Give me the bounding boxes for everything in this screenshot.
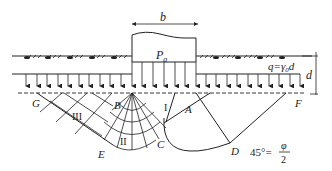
angle-formula: 45°= φ 2 [250, 140, 290, 165]
surcharge-label: q=γ0d [268, 60, 295, 74]
footing: Pa [132, 32, 196, 64]
width-label: b [160, 10, 166, 24]
width-dimension: b [132, 10, 198, 26]
zone-I-label: I [164, 102, 167, 113]
zone-II-label: II [120, 136, 127, 147]
label-F: F [294, 97, 302, 109]
label-G: G [32, 97, 40, 109]
zone-III-label: III [72, 111, 82, 122]
pressure-label: Pa [155, 48, 167, 64]
depth-dimension: d [302, 52, 318, 95]
label-D: D [230, 145, 239, 157]
angle-numerator: φ [281, 140, 287, 151]
label-B: B [114, 99, 121, 111]
depth-label: d [306, 68, 313, 82]
label-A: A [184, 103, 192, 115]
bearing-capacity-diagram: b Pa q=γ0d d [0, 0, 332, 171]
angle-denominator: 2 [281, 154, 286, 165]
surcharge-arrows [26, 74, 300, 86]
label-C: C [157, 138, 165, 150]
label-E: E [97, 148, 105, 160]
footing-pressure-arrows [132, 62, 196, 86]
angle-lhs: 45°= [250, 146, 272, 158]
